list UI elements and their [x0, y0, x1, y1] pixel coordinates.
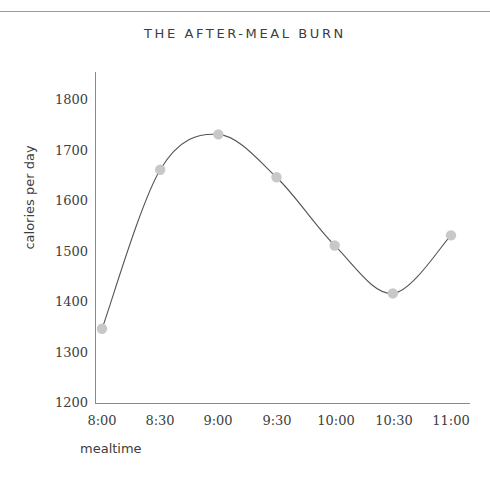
data-point-930[interactable] — [269, 169, 285, 185]
data-point-1030[interactable] — [385, 285, 401, 301]
data-point-900[interactable] — [210, 126, 226, 142]
data-point-1100[interactable] — [443, 227, 459, 243]
y-axis-spine — [95, 72, 96, 403]
y-tick-label-1400: 1400 — [8, 294, 88, 309]
x-tick-label-0930: 9:30 — [247, 413, 307, 428]
data-point-1000[interactable] — [327, 237, 343, 253]
x-tick-label-0830: 8:30 — [130, 413, 190, 428]
data-point-800[interactable] — [94, 321, 110, 337]
y-axis-label: calories per day — [22, 133, 37, 263]
x-tick-label-0900: 9:00 — [188, 413, 248, 428]
x-tick-label-0800: 8:00 — [72, 413, 132, 428]
x-tick-label-1000: 10:00 — [306, 413, 366, 428]
chart-figure: THE AFTER-MEAL BURN 1200 1300 1400 1500 … — [0, 0, 490, 486]
x-axis-spine — [95, 403, 470, 404]
y-tick-label-1500: 1500 — [8, 244, 88, 259]
x-tick-label-1030: 10:30 — [364, 413, 424, 428]
y-tick-label-1600: 1600 — [8, 193, 88, 208]
y-tick-label-1800: 1800 — [8, 92, 88, 107]
y-tick-label-1300: 1300 — [8, 345, 88, 360]
x-axis-label: mealtime — [80, 441, 142, 456]
y-tick-label-1700: 1700 — [8, 143, 88, 158]
data-point-830[interactable] — [152, 162, 168, 178]
series-markers — [97, 129, 456, 334]
x-tick-label-1100: 11:00 — [421, 413, 481, 428]
y-tick-label-1200: 1200 — [8, 395, 88, 410]
